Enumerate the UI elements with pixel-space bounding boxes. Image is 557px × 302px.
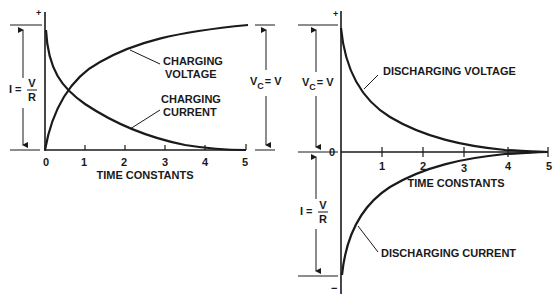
discharging-voltage-label: DISCHARGING VOLTAGE [383, 65, 516, 77]
charging-current-curve [46, 30, 246, 150]
left-current-label: I = [9, 83, 22, 95]
svg-text:4: 4 [202, 156, 209, 168]
svg-text:3: 3 [461, 162, 467, 174]
left-x-tick-labels: 0 1 2 3 4 5 [43, 156, 248, 168]
left-fraction-num: V [28, 77, 36, 89]
charging-voltage-curve [45, 25, 248, 150]
discharging-current-label: DISCHARGING CURRENT [381, 247, 516, 259]
svg-text:5: 5 [242, 156, 248, 168]
right-plus-sign: + [333, 9, 338, 19]
svg-text:3: 3 [162, 156, 168, 168]
right-fraction-num: V [319, 199, 327, 211]
left-x-axis-label: TIME CONSTANTS [97, 169, 194, 181]
right-minus-sign: − [331, 282, 337, 294]
svg-text:0: 0 [43, 156, 49, 168]
right-x-tick-labels: 1 2 3 4 5 [379, 160, 552, 174]
discharging-voltage-curve [341, 28, 548, 152]
charging-voltage-label-1: CHARGING [163, 55, 223, 67]
svg-text:4: 4 [505, 160, 512, 172]
right-x-axis-label: TIME CONSTANTS [408, 177, 505, 189]
svg-text:5: 5 [546, 160, 552, 172]
svg-text:1: 1 [379, 160, 385, 172]
discharge-voltage-leader [364, 75, 378, 89]
charging-current-label-1: CHARGING [161, 93, 221, 105]
right-fraction-den: R [319, 213, 327, 225]
right-chart: + − 0 1 2 3 4 5 TIME CONSTANTS VC= V [298, 9, 552, 294]
left-fraction-den: R [28, 91, 36, 103]
rc-time-constant-diagram: + 0 1 2 3 4 5 TIME CONSTANTS I = V R [0, 0, 557, 302]
left-plus-sign: + [36, 8, 41, 18]
right-current-label: I = [300, 205, 313, 217]
current-leader-line [130, 110, 160, 129]
charging-current-label-2: CURRENT [163, 106, 217, 118]
svg-text:2: 2 [121, 156, 127, 168]
charging-voltage-label-2: VOLTAGE [165, 68, 217, 80]
svg-text:1: 1 [81, 156, 87, 168]
discharge-current-leader [358, 226, 378, 252]
left-chart: + 0 1 2 3 4 5 TIME CONSTANTS I = V R [8, 8, 286, 181]
voltage-leader-line [130, 50, 160, 64]
